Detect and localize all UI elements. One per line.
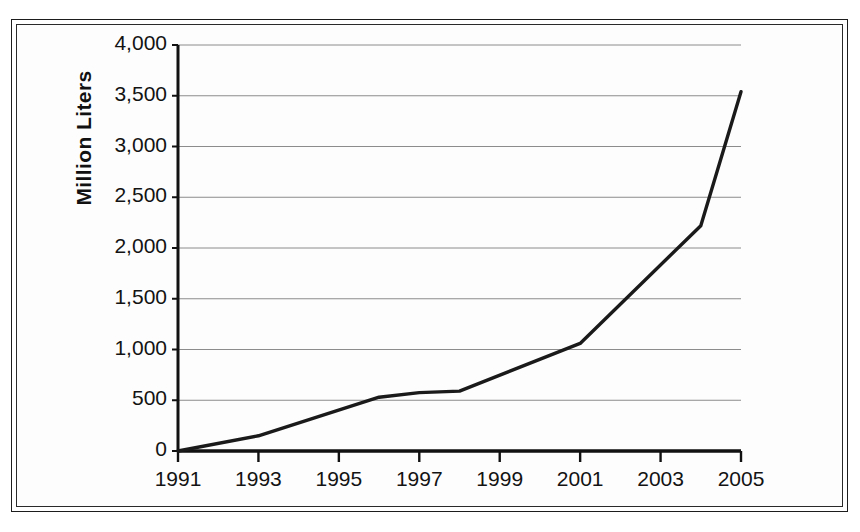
y-tick-label: 3,500 xyxy=(81,82,167,106)
x-tick-label: 2003 xyxy=(616,467,706,491)
x-tick-label: 1991 xyxy=(133,467,223,491)
y-tick-label: 1,000 xyxy=(81,336,167,360)
x-tick-label: 1993 xyxy=(213,467,303,491)
y-tick-label: 3,000 xyxy=(81,133,167,157)
x-tick-label: 2001 xyxy=(535,467,625,491)
x-tick-label: 2005 xyxy=(696,467,786,491)
x-tick-label: 1997 xyxy=(374,467,464,491)
y-tick-label: 1,500 xyxy=(81,285,167,309)
y-tick-label: 500 xyxy=(81,386,167,410)
y-tick-label: 4,000 xyxy=(81,31,167,55)
y-tick-label: 2,000 xyxy=(81,234,167,258)
y-tick-label: 0 xyxy=(81,437,167,461)
y-tick-label: 2,500 xyxy=(81,183,167,207)
x-tick-label: 1995 xyxy=(294,467,384,491)
x-tick-label: 1999 xyxy=(455,467,545,491)
